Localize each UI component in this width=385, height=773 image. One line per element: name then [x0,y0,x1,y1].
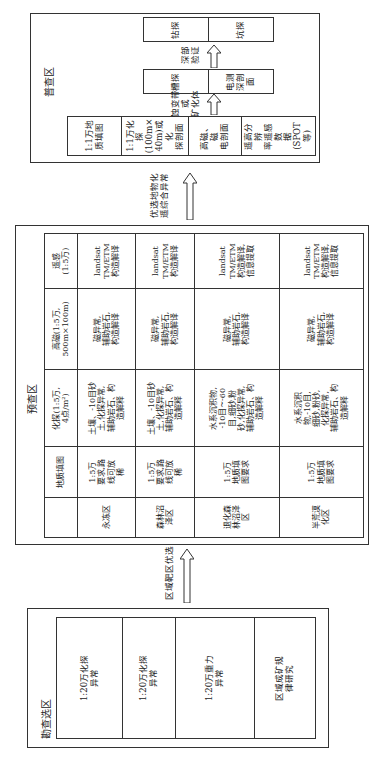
exploration-flow-diagram: 勘查选区 1:20万化探 异常 1:20万化探 异常 1:20万重力 异常 区域… [0,0,385,773]
table-cell: 磁异常, 辅助岩石, 构造解译 [195,289,279,370]
general-survey-box: 普查区 1:1万地 质填图 1:1万化探 (100m× 40m)或化 探剖面 高… [30,13,320,163]
table-cell: 磁异常, 辅助岩石, 构造解译 [279,289,363,370]
table-cell: 磁异常, 辅助岩石, 构造解译 [136,289,195,370]
general-survey-title: 普查区 [41,67,56,97]
arrow-right-icon [183,172,197,220]
table-cell: 磁异常, 辅助岩石, 构造解译 [77,289,136,370]
table-row: 永冻区 1:5万 要求,路 线可放 稀 土壤、-10目砂 土,化探异常, 辅助岩… [77,234,136,538]
arrow1-label: 区域靶区优选 [165,543,175,603]
table-header-cell: 地质填图 [45,447,78,497]
arrow-right-icon [180,548,194,603]
general-survey-middle-item: 电测 深剖 面 [208,69,274,94]
table-cell: 永冻区 [77,497,136,537]
arrow-right-icon [207,44,221,68]
arrow-b-label: 深部验证 [181,42,201,68]
table-cell: landsat TM/ETM 构造解译 [77,234,136,289]
table-row: 半荒漠 化区 1:5万 地质填 图要求 水系沉积 物,-10目, 细砂,粉砂, … [279,234,363,538]
select-area-item: 1:20万化探 异常 [122,617,176,739]
table-cell: 半荒漠 化区 [279,497,363,537]
table-cell: 1:5万 要求,路 线可放 稀 [77,447,136,497]
table-header-cell: 化探(1:5万, 4点/m²) [45,370,78,447]
table-cell: 土壤、-10目砂 土,化探异常, 辅助岩石、构 造解释 [77,370,136,447]
table-cell: landsat TM/ETM 构造解译 [136,234,195,289]
arrow-right-icon [207,93,221,115]
general-survey-middle-item: 槽探 [143,69,209,94]
table-cell: 水系沉积 物,-10目, 细砂,粉砂, 化探异常, 辅助岩石、构 造解释 [279,370,363,447]
general-survey-right-item: 钻探 [143,17,209,42]
pre-survey-title: 预查区 [24,384,39,414]
table-cell: 1:5万 要求,路 线可放 稀 [136,447,195,497]
general-survey-left-item: 高磁、磁 电剖面 [188,116,242,156]
pre-survey-box: 预查区 地质填图 化探(1:5万, 4点/m²) 高磁(1:5万, 500m×1… [15,225,369,545]
table-cell: landsat TM/ETM 构造解译, 信息提取 [279,234,363,289]
select-area-box: 勘查选区 1:20万化探 异常 1:20万化探 异常 1:20万重力 异常 区域… [27,608,329,748]
table-cell: landsat TM/ETM 构造解译, 信息提取 [195,234,279,289]
table-cell: 森林沼 泽区 [136,497,195,537]
select-area-item: 1:20万重力 异常 [175,617,255,739]
table-cell: 土壤、-10目砂 土,化探异常, 辅助岩石、构 造解释 [136,370,195,447]
general-survey-right-item: 坑探 [208,17,274,42]
table-row: 退化森 林沼泽 区 1:5万 地质填 图要求 水系沉积物, -10目~-60 目… [195,234,279,538]
table-header-row: 地质填图 化探(1:5万, 4点/m²) 高磁(1:5万, 500m×100m)… [45,234,78,538]
arrow2-label: 优选地物化 遥综合异常 [150,168,170,223]
table-header-cell: 遥感 (1:5万) [45,234,78,289]
table-cell: 水系沉积物, -10目~-60 目,细砂,粉 砂,化探异常, 辅助岩石、构 造解… [195,370,279,447]
table-cell: 1:5万 地质填 图要求 [279,447,363,497]
table-header-cell [45,497,78,537]
table-cell: 1:5万 地质填 图要求 [195,447,279,497]
table-cell: 退化森 林沼泽 区 [195,497,279,537]
select-area-title: 勘查选区 [38,699,53,739]
pre-survey-table: 地质填图 化探(1:5万, 4点/m²) 高磁(1:5万, 500m×100m)… [44,233,364,538]
table-row: 森林沼 泽区 1:5万 要求,路 线可放 稀 土壤、-10目砂 土,化探异常, … [136,234,195,538]
general-survey-left-item: 1:1万地 质填图 [67,116,122,156]
table-header-cell: 高磁(1:5万, 500m×100m) [45,289,78,370]
select-area-item: 区域成矿规 律研究 [254,617,316,739]
general-survey-left-item: 1:1万化探 (100m× 40m)或化 探剖面 [121,116,189,156]
select-area-item: 1:20万化探 异常 [56,617,123,739]
general-survey-left-item: 遥高分辨 率遥感数 据(SPOT 等) [241,116,316,156]
